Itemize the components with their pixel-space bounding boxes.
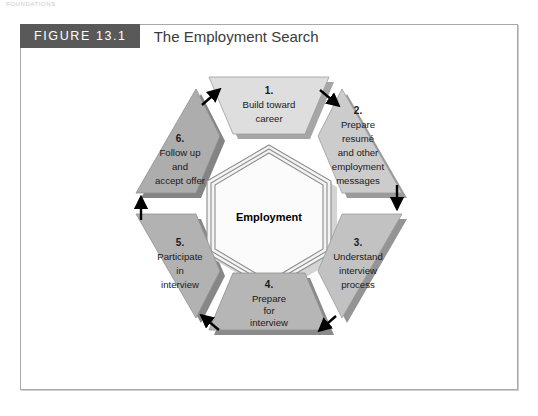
step-1-line-2: career — [255, 113, 283, 124]
step-5-line-1: Participate — [157, 251, 202, 262]
employment-search-cycle-diagram: Employment 1. Build toward career 2. Pre… — [20, 48, 518, 390]
step-5-line-3: interview — [161, 279, 199, 290]
step-5-line-2: in — [176, 265, 183, 276]
figure-header: FIGURE 13.1 The Employment Search — [20, 24, 319, 48]
step-4-number: 4. — [265, 279, 274, 290]
step-2-line-1: Prepare — [341, 119, 375, 130]
step-6-line-3: accept offer — [155, 175, 206, 186]
step-3-number: 3. — [354, 237, 363, 248]
arrow-6-to-1 — [202, 90, 219, 105]
step-2-line-3: and other — [338, 147, 379, 158]
step-3-line-2: interview — [339, 265, 377, 276]
step-3-line-1: Understand — [333, 251, 383, 262]
figure-number-badge: FIGURE 13.1 — [20, 24, 140, 48]
step-2-line-2: resumé — [342, 133, 374, 144]
step-6-line-1: Follow up — [159, 147, 200, 158]
step-4-line-1: Prepare — [252, 293, 286, 304]
step-2-line-4: employment — [332, 161, 385, 172]
step-2-number: 2. — [354, 105, 363, 116]
step-2-line-5: messages — [336, 175, 380, 186]
step-1-number: 1. — [265, 85, 274, 96]
step-3-line-3: process — [341, 279, 375, 290]
step-4-line-2: for — [263, 305, 275, 316]
center-label: Employment — [236, 211, 302, 223]
cycle-svg: Employment 1. Build toward career 2. Pre… — [20, 48, 518, 390]
step-6-line-2: and — [172, 161, 188, 172]
figure-title: The Employment Search — [140, 24, 319, 48]
step-2-shape-group[interactable]: 2. Prepare resumé and other employment m… — [318, 89, 402, 193]
step-5-number: 5. — [176, 237, 185, 248]
step-6-number: 6. — [176, 133, 185, 144]
step-4-line-3: interview — [250, 317, 288, 328]
step-1-line-1: Build toward — [243, 99, 296, 110]
page-running-head: FOUNDATIONS — [6, 1, 56, 7]
